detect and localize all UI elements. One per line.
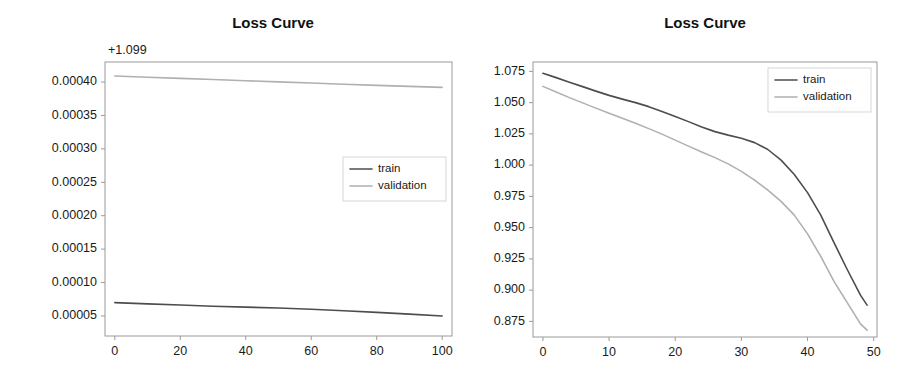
y-tick-label: 1.050 (494, 95, 525, 109)
y-axis-offset-label: +1.099 (108, 43, 147, 57)
x-tick-label: 20 (668, 345, 682, 359)
y-tick-label: 0.00035 (52, 108, 97, 122)
x-tick-label: 20 (173, 344, 187, 358)
chart-title: Loss Curve (664, 14, 746, 31)
chart-panel-left: Loss Curve0.000050.000100.000150.000200.… (0, 0, 460, 381)
y-tick-label: 1.000 (494, 157, 525, 171)
x-tick-label: 60 (304, 344, 318, 358)
x-tick-label: 40 (239, 344, 253, 358)
legend-label-validation: validation (803, 90, 852, 102)
series-line-validation (115, 76, 442, 87)
x-tick-label: 40 (801, 345, 815, 359)
chart-legend: trainvalidation (768, 68, 871, 112)
y-tick-label: 0.00010 (52, 275, 97, 289)
loss-curve-chart-right: Loss Curve0.8750.9000.9250.9500.9751.000… (460, 0, 919, 381)
y-tick-label: 0.875 (494, 314, 525, 328)
loss-curve-figure: Loss Curve0.000050.000100.000150.000200.… (0, 0, 919, 381)
y-tick-label: 1.075 (494, 64, 525, 78)
chart-title: Loss Curve (232, 14, 314, 31)
y-tick-label: 0.900 (494, 282, 525, 296)
x-tick-label: 30 (734, 345, 748, 359)
x-tick-label: 10 (602, 345, 616, 359)
x-tick-label: 50 (867, 345, 881, 359)
y-tick-label: 1.025 (494, 126, 525, 140)
series-line-validation (543, 86, 867, 330)
loss-curve-chart-left: Loss Curve0.000050.000100.000150.000200.… (0, 0, 460, 381)
chart-legend: trainvalidation (343, 157, 446, 201)
y-tick-label: 0.00040 (52, 74, 97, 88)
y-tick-label: 0.00015 (52, 241, 97, 255)
x-tick-label: 100 (432, 344, 453, 358)
legend-label-train: train (803, 73, 825, 85)
x-tick-label: 80 (370, 344, 384, 358)
legend-label-train: train (378, 162, 400, 174)
y-tick-label: 0.00025 (52, 175, 97, 189)
series-line-train (115, 303, 442, 316)
chart-panel-right: Loss Curve0.8750.9000.9250.9500.9751.000… (460, 0, 919, 381)
y-tick-label: 0.00030 (52, 141, 97, 155)
y-tick-label: 0.925 (494, 251, 525, 265)
y-tick-label: 0.00005 (52, 308, 97, 322)
y-tick-label: 0.950 (494, 220, 525, 234)
y-tick-label: 0.975 (494, 189, 525, 203)
y-tick-label: 0.00020 (52, 208, 97, 222)
legend-label-validation: validation (378, 179, 427, 191)
x-tick-label: 0 (111, 344, 118, 358)
x-tick-label: 0 (539, 345, 546, 359)
